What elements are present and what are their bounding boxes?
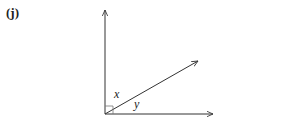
angle-y-label: y xyxy=(133,97,140,111)
angle-diagram: x y xyxy=(0,0,288,122)
angle-x-label: x xyxy=(113,87,120,101)
